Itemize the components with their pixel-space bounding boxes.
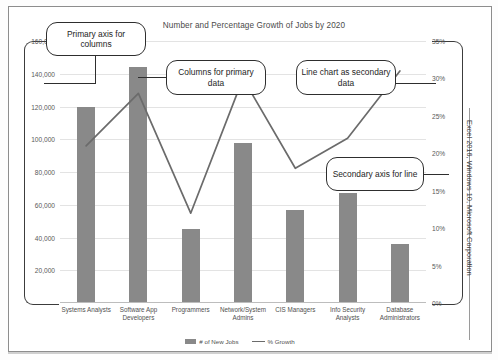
category-label: Systems Analysts [60, 306, 112, 314]
legend-item-new-jobs: # of New Jobs [185, 338, 238, 345]
annotation-primary-axis: Primary axis for columns [46, 22, 146, 56]
category-label: Network/SystemAdmins [217, 306, 269, 323]
category-label: Software AppDevelopers [112, 306, 164, 323]
secondary-y-tick-label: 5% [432, 262, 442, 269]
annotation-secondary-axis: Secondary axis for line [326, 157, 424, 191]
category-label: CIS Managers [269, 306, 321, 314]
primary-y-tick-label: 20,000 [35, 267, 55, 274]
primary-y-tick-label: 60,000 [35, 201, 55, 208]
secondary-y-tick-label: 0% [432, 300, 442, 307]
category-label: Programmers [165, 306, 217, 314]
legend-label-new-jobs: # of New Jobs [199, 338, 238, 345]
chart-title: Number and Percentage Growth of Jobs by … [104, 21, 404, 30]
credit-text: Excel 2016, Windows 10, Microsoft Corpor… [465, 120, 474, 276]
category-axis-labels: Systems AnalystsSoftware AppDevelopersPr… [60, 306, 426, 332]
secondary-y-tick-label: 15% [432, 187, 445, 194]
secondary-y-tick-label: 10% [432, 225, 445, 232]
annotation-line-chart-leader [395, 83, 436, 84]
secondary-y-tick-label: 20% [432, 150, 445, 157]
primary-y-tick-label: 100,000 [31, 136, 55, 143]
annotation-primary-axis-leader-h [44, 83, 96, 84]
secondary-y-tick-label: 35% [432, 38, 445, 45]
bar-swatch-icon [185, 339, 196, 344]
secondary-y-tick-label: 25% [432, 112, 445, 119]
category-label: DatabaseAdministrators [374, 306, 426, 323]
annotation-columns: Columns for primary data [166, 60, 266, 95]
chart-legend: # of New Jobs % Growth [14, 338, 466, 345]
annotation-line-chart: Line chart as secondary data [296, 60, 396, 95]
annotation-secondary-axis-leader [423, 174, 449, 175]
line-swatch-icon [252, 341, 265, 342]
x-axis-line [60, 302, 426, 303]
category-label: Info SecurityAnalysts [321, 306, 373, 323]
primary-y-tick-label: 140,000 [31, 70, 55, 77]
primary-y-tick-label: 80,000 [35, 169, 55, 176]
legend-label-growth: % Growth [268, 338, 295, 345]
screenshot-root: Number and Percentage Growth of Jobs by … [0, 0, 498, 360]
legend-item-growth: % Growth [252, 338, 295, 345]
annotation-columns-leader [138, 77, 167, 78]
primary-y-tick-label: 40,000 [35, 234, 55, 241]
annotation-primary-axis-leader [95, 56, 96, 84]
primary-y-tick-label: 120,000 [31, 103, 55, 110]
secondary-y-tick-label: 30% [432, 75, 445, 82]
